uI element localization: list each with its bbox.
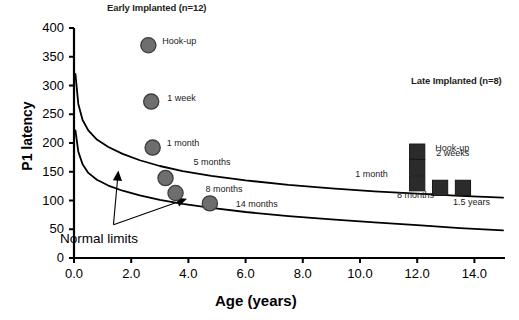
x-tick-label: 0.0	[52, 266, 96, 281]
data-point-square[interactable]	[410, 160, 425, 175]
y-tick-label: 150	[20, 164, 64, 179]
data-point-circle[interactable]	[144, 94, 159, 109]
data-point-circle[interactable]	[141, 38, 156, 53]
y-tick-label: 250	[20, 106, 64, 121]
data-point-label: 1 week	[167, 93, 196, 103]
data-point-label: 5 months	[194, 157, 231, 167]
data-point-label: 1 month	[355, 169, 388, 179]
data-point-label: 14 months	[236, 199, 278, 209]
data-point-circle[interactable]	[145, 140, 160, 155]
normal-limits-arrowhead	[113, 171, 122, 181]
y-tick-label: 50	[20, 221, 64, 236]
data-point-label: 8 months	[397, 190, 434, 200]
data-point-circle[interactable]	[168, 185, 183, 200]
chart-figure: Early Implanted (n=12) Late Implanted (n…	[0, 0, 519, 320]
x-tick-label: 4.0	[166, 266, 210, 281]
data-point-circle[interactable]	[202, 196, 217, 211]
x-tick-label: 14.0	[452, 266, 496, 281]
x-tick-label: 12.0	[395, 266, 439, 281]
y-tick-label: 350	[20, 49, 64, 64]
x-tick-label: 2.0	[109, 266, 153, 281]
x-tick-label: 10.0	[338, 266, 382, 281]
normal-limits-arrow-line	[113, 202, 178, 225]
data-point-circle[interactable]	[158, 170, 173, 185]
y-tick-label: 300	[20, 78, 64, 93]
x-tick-label: 8.0	[281, 266, 325, 281]
data-point-square[interactable]	[410, 144, 425, 159]
data-point-square[interactable]	[432, 180, 447, 195]
x-tick-label: 6.0	[224, 266, 268, 281]
normal-limits-arrow-line	[113, 180, 117, 225]
data-point-label: 1.5 years	[453, 197, 490, 207]
data-point-label: Hook-up	[162, 36, 196, 46]
y-tick-label: 0	[20, 250, 64, 265]
data-point-label: 2 weeks	[436, 148, 469, 158]
y-tick-label: 200	[20, 135, 64, 150]
y-tick-label: 100	[20, 193, 64, 208]
data-point-square[interactable]	[410, 176, 425, 191]
data-point-label: 8 months	[206, 184, 243, 194]
y-tick-label: 400	[20, 20, 64, 35]
data-point-square[interactable]	[455, 180, 470, 195]
curve-upper-normal-limit	[75, 74, 503, 198]
data-point-label: 1 month	[167, 138, 200, 148]
